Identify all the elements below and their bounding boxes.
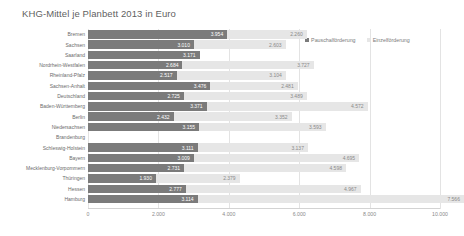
- bar-value-label: 4.572: [351, 104, 364, 109]
- bar-value-label: 2.725: [167, 94, 180, 99]
- bar-segment-pauschalfoerderung[interactable]: 3.009: [88, 154, 194, 163]
- bar-segment-pauschalfoerderung[interactable]: 3.171: [88, 51, 200, 60]
- x-axis-tick-label: 4.000: [222, 211, 235, 217]
- x-axis-line: [88, 208, 440, 209]
- bar-segment-einzelfoerderung[interactable]: 4.598: [184, 164, 346, 173]
- bar-value-label: 3.593: [309, 124, 322, 129]
- bar-segment-einzelfoerderung[interactable]: 2.379: [156, 174, 240, 183]
- bar-row: Baden-Württemberg3.3714.572: [88, 102, 440, 111]
- category-label: Saarland: [65, 52, 85, 57]
- bar-value-label: 3.155: [183, 124, 196, 129]
- bar-value-label: 2.481: [281, 83, 294, 88]
- bar-row: Brandenburg: [88, 133, 440, 142]
- stacked-bar[interactable]: 2.7774.967: [88, 185, 361, 194]
- stacked-bar[interactable]: 1.9302.379: [88, 174, 240, 183]
- stacked-bar[interactable]: 3.1147.566: [88, 195, 464, 204]
- category-label: Nordrhein-Westfalen: [39, 63, 85, 68]
- bar-segment-einzelfoerderung[interactable]: 3.352: [174, 112, 292, 121]
- bar-value-label: 3.010: [177, 42, 190, 47]
- bar-value-label: 2.603: [269, 42, 282, 47]
- bar-segment-einzelfoerderung[interactable]: 7.566: [198, 195, 464, 204]
- stacked-bar[interactable]: 3.0094.695: [88, 154, 359, 163]
- bar-value-label: 3.171: [183, 52, 196, 57]
- bar-segment-pauschalfoerderung[interactable]: 3.476: [88, 82, 210, 91]
- stacked-bar[interactable]: 3.171: [88, 51, 200, 60]
- category-label: Berlin: [72, 114, 85, 119]
- bar-value-label: 2.260: [290, 32, 303, 37]
- bar-value-label: 2.731: [168, 166, 181, 171]
- stacked-bar[interactable]: 3.4762.481: [88, 82, 298, 91]
- bar-segment-pauschalfoerderung[interactable]: 2.777: [88, 185, 186, 194]
- bar-segment-pauschalfoerderung[interactable]: 2.684: [88, 61, 182, 70]
- bar-segment-einzelfoerderung[interactable]: 2.260: [227, 30, 307, 39]
- stacked-bar[interactable]: 3.9542.260: [88, 30, 307, 39]
- bar-value-label: 2.379: [223, 176, 236, 181]
- bar-segment-pauschalfoerderung[interactable]: 3.155: [88, 123, 199, 132]
- bar-row: Hessen2.7774.967: [88, 185, 440, 194]
- category-label: Bremen: [67, 32, 85, 37]
- bar-row: Nordrhein-Westfalen2.6843.727: [88, 61, 440, 70]
- bar-row: Sachsen3.0102.603: [88, 40, 440, 49]
- bar-segment-pauschalfoerderung[interactable]: 3.954: [88, 30, 227, 39]
- stacked-bar[interactable]: 2.6843.727: [88, 61, 314, 70]
- stacked-bar[interactable]: 3.1553.593: [88, 123, 326, 132]
- category-label: Thüringen: [62, 176, 85, 181]
- bar-value-label: 3.371: [190, 104, 203, 109]
- bar-segment-einzelfoerderung[interactable]: 4.572: [207, 102, 368, 111]
- bar-value-label: 1.930: [139, 176, 152, 181]
- bar-value-label: 4.598: [329, 166, 342, 171]
- bar-value-label: 3.352: [275, 114, 288, 119]
- category-label: Mecklenburg-Vorpommern: [26, 166, 85, 171]
- category-label: Sachsen: [66, 42, 85, 47]
- bar-value-label: 3.111: [182, 145, 194, 150]
- bar-segment-einzelfoerderung[interactable]: 2.603: [194, 40, 286, 49]
- bar-segment-einzelfoerderung[interactable]: 4.695: [194, 154, 359, 163]
- chart-title: KHG-Mittel je Planbett 2013 in Euro: [22, 8, 176, 19]
- bar-value-label: 3.476: [194, 83, 207, 88]
- category-label: Hamburg: [64, 197, 85, 202]
- category-label: Hessen: [68, 186, 85, 191]
- stacked-bar[interactable]: 3.3714.572: [88, 102, 368, 111]
- bar-segment-einzelfoerderung[interactable]: 3.593: [199, 123, 325, 132]
- bar-value-label: 3.104: [269, 73, 282, 78]
- bar-value-label: 2.517: [160, 73, 173, 78]
- bar-value-label: 2.684: [166, 63, 179, 68]
- stacked-bar[interactable]: 3.0102.603: [88, 40, 286, 49]
- bar-segment-pauschalfoerderung[interactable]: 3.111: [88, 143, 198, 152]
- bar-segment-pauschalfoerderung[interactable]: 2.731: [88, 164, 184, 173]
- bar-segment-einzelfoerderung[interactable]: 3.104: [177, 71, 286, 80]
- bar-segment-pauschalfoerderung[interactable]: 2.517: [88, 71, 177, 80]
- bar-segment-pauschalfoerderung[interactable]: 3.371: [88, 102, 207, 111]
- bar-row: Saarland3.171: [88, 51, 440, 60]
- stacked-bar[interactable]: 2.7253.489: [88, 92, 307, 101]
- stacked-bar[interactable]: 2.7314.598: [88, 164, 346, 173]
- bar-segment-einzelfoerderung[interactable]: 3.727: [182, 61, 313, 70]
- bar-row: Bayern3.0094.695: [88, 154, 440, 163]
- stacked-bar[interactable]: 3.1113.137: [88, 143, 308, 152]
- bar-segment-pauschalfoerderung[interactable]: 2.725: [88, 92, 184, 101]
- bar-value-label: 3.137: [291, 145, 304, 150]
- bar-row: Hamburg3.1147.566: [88, 195, 440, 204]
- bar-row: Niedersachsen3.1553.593: [88, 123, 440, 132]
- category-label: Schleswig-Holstein: [43, 145, 85, 150]
- bar-row: Rheinland-Pfalz2.5173.104: [88, 71, 440, 80]
- x-axis-tick-label: 0: [87, 211, 90, 217]
- bar-segment-einzelfoerderung[interactable]: 3.489: [184, 92, 307, 101]
- stacked-bar[interactable]: 2.5173.104: [88, 71, 286, 80]
- bar-value-label: 2.777: [169, 186, 182, 191]
- bar-segment-pauschalfoerderung[interactable]: 1.930: [88, 174, 156, 183]
- bar-segment-pauschalfoerderung[interactable]: 3.010: [88, 40, 194, 49]
- bar-value-label: 4.695: [343, 155, 356, 160]
- x-axis-tick-label: 8.000: [363, 211, 376, 217]
- category-label: Sachsen-Anhalt: [50, 83, 85, 88]
- bar-segment-pauschalfoerderung[interactable]: 2.432: [88, 112, 174, 121]
- stacked-bar[interactable]: 2.4323.352: [88, 112, 292, 121]
- bar-segment-pauschalfoerderung[interactable]: 3.114: [88, 195, 198, 204]
- bar-value-label: 3.489: [290, 94, 303, 99]
- bar-segment-einzelfoerderung[interactable]: 2.481: [210, 82, 297, 91]
- bar-row: Deutschland2.7253.489: [88, 92, 440, 101]
- bar-segment-einzelfoerderung[interactable]: 3.137: [198, 143, 308, 152]
- bar-segment-einzelfoerderung[interactable]: 4.967: [186, 185, 361, 194]
- bar-row: Bremen3.9542.260: [88, 30, 440, 39]
